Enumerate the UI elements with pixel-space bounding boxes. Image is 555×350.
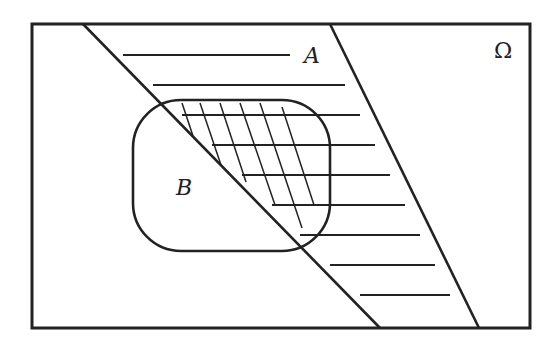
universe-label: Ω (494, 40, 512, 62)
venn-diagram (0, 0, 555, 350)
set-a-left-boundary (83, 24, 380, 328)
set-b-label: B (176, 177, 192, 199)
set-a-label: A (304, 45, 320, 67)
set-a-hatching (123, 55, 450, 295)
set-a-right-boundary (330, 24, 479, 328)
intersection-crosshatch (182, 103, 314, 228)
